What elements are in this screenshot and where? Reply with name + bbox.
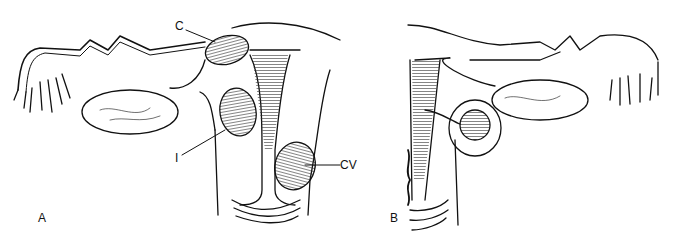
annotation-label-cv: CV [340,159,357,171]
panel-label-a: A [38,212,46,224]
annotation-label-i: I [175,152,178,164]
cyst-i [216,85,260,139]
panel-label-b: B [390,212,398,224]
panel-a-drawing [14,23,340,223]
panel-b-drawing [408,25,658,230]
cyst-c [202,31,252,69]
anatomical-drawing [0,0,677,238]
illustration-figure: C I CV A B [0,0,677,238]
annotation-label-c: C [175,20,184,32]
cyst-cv [269,138,320,195]
